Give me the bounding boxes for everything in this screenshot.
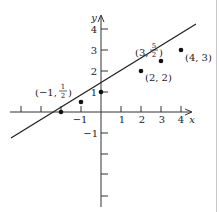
annotation-2-2: (2, 2) [145, 72, 172, 83]
y-tick-label-3: 3 [91, 45, 97, 56]
x-tick-label-3: 3 [159, 114, 165, 125]
y-tick-label-neg1: −1 [83, 128, 98, 139]
line-chart: −1 1 2 3 4 x 4 3 2 1 −1 y [0, 0, 219, 212]
y-axis: 4 3 2 1 −1 y [83, 12, 108, 207]
svg-text:): ) [68, 87, 72, 98]
svg-text:5: 5 [152, 42, 156, 50]
point-2-2 [139, 69, 144, 74]
annotation-3-5half: (3, 5 2 ) [135, 42, 163, 59]
y-axis-label: y [90, 12, 97, 23]
point-4-3 [179, 48, 184, 53]
svg-text:(3,: (3, [135, 47, 148, 58]
x-tick-label-neg1: −1 [73, 114, 88, 125]
x-tick-label-2: 2 [139, 114, 145, 125]
point-3-5half [159, 59, 164, 64]
x-tick-label-1: 1 [119, 114, 125, 125]
y-tick-label-4: 4 [91, 24, 97, 35]
annotation-neg1-half: (−1, 1 2 ) [35, 83, 72, 100]
svg-text:1: 1 [61, 83, 65, 91]
y-tick-label-2: 2 [91, 66, 97, 77]
svg-text:2: 2 [61, 92, 65, 100]
x-tick-label-4: 4 [178, 114, 184, 125]
point-neg2-0 [59, 110, 64, 115]
svg-text:): ) [159, 47, 163, 58]
point-0-1 [99, 90, 104, 95]
annotation-4-3: (4, 3) [185, 52, 212, 63]
x-axis-label: x [189, 114, 195, 125]
point-neg1-half [79, 100, 84, 105]
svg-text:(−1,: (−1, [35, 87, 57, 98]
svg-text:2: 2 [152, 51, 156, 59]
